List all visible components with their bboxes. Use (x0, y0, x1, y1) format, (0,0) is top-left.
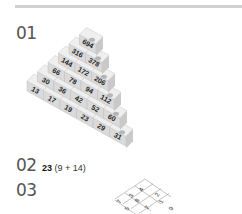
grid-cell: 9 (168, 205, 175, 211)
grid-cell: 4 (138, 186, 145, 192)
grid-cell: 2 (154, 191, 161, 197)
grid-cell: 1 (158, 198, 165, 204)
grid-cell: 3 (128, 192, 135, 198)
grid-cell: 7 (116, 198, 123, 204)
number-grid: 432781579 (0, 0, 242, 214)
